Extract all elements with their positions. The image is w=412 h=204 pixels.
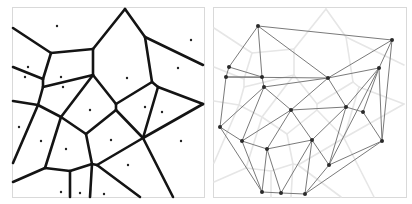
voronoi-site-dot	[190, 39, 192, 41]
delaunay-vertex-dot	[218, 125, 222, 129]
delaunay-vertex-dot	[227, 65, 231, 69]
delaunay-vertex-dot	[279, 191, 283, 195]
voronoi-site-dot	[18, 126, 20, 128]
voronoi-site-dot	[40, 140, 42, 142]
voronoi-site-dot	[110, 139, 112, 141]
delaunay-vertex-dot	[265, 147, 269, 151]
voronoi-site-dot	[126, 77, 128, 79]
voronoi-panel	[13, 8, 205, 198]
voronoi-site-dot	[144, 106, 146, 108]
voronoi-site-dot	[177, 67, 179, 69]
delaunay-vertex-dot	[380, 139, 384, 143]
voronoi-site-dot	[24, 76, 26, 78]
delaunay-vertex-dot	[262, 85, 266, 89]
voronoi-site-dot	[65, 148, 67, 150]
voronoi-site-dot	[56, 25, 58, 27]
delaunay-vertex-dot	[390, 38, 394, 42]
delaunay-vertex-dot	[326, 76, 330, 80]
voronoi-delaunay-figure	[0, 0, 412, 204]
delaunay-vertex-dot	[224, 75, 228, 79]
delaunay-vertex-dot	[256, 24, 260, 28]
delaunay-vertex-dot	[303, 192, 307, 196]
voronoi-site-dot	[127, 164, 129, 166]
delaunay-vertex-dot	[260, 75, 264, 79]
delaunay-panel	[214, 8, 407, 198]
voronoi-site-dot	[60, 191, 62, 193]
delaunay-vertex-dot	[327, 163, 331, 167]
delaunay-vertex-dot	[260, 190, 264, 194]
delaunay-vertex-dot	[361, 110, 365, 114]
voronoi-site-dot	[89, 109, 91, 111]
delaunay-vertex-dot	[344, 105, 348, 109]
delaunay-vertex-dot	[310, 138, 314, 142]
voronoi-site-dot	[60, 76, 62, 78]
voronoi-site-dot	[79, 192, 81, 194]
delaunay-vertex-dot	[289, 108, 293, 112]
voronoi-site-dot	[27, 66, 29, 68]
voronoi-site-dot	[62, 86, 64, 88]
delaunay-vertex-dot	[377, 66, 381, 70]
figure	[0, 0, 412, 204]
delaunay-vertex-dot	[240, 139, 244, 143]
voronoi-site-dot	[103, 193, 105, 195]
voronoi-site-dot	[180, 140, 182, 142]
voronoi-site-dot	[161, 111, 163, 113]
